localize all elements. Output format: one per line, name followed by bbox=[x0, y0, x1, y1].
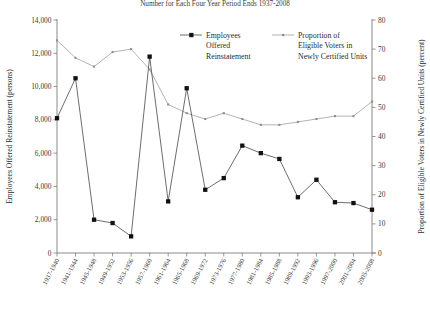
data-point-employees bbox=[55, 116, 59, 120]
x-tick-label: 1981-1984 bbox=[245, 257, 265, 286]
data-point-employees bbox=[351, 201, 355, 205]
legend-label-employees: Offered bbox=[206, 41, 230, 50]
y-tick-label-left: 2,000 bbox=[35, 215, 52, 224]
data-point-employees bbox=[92, 218, 96, 222]
data-point-employees bbox=[314, 178, 318, 182]
data-point-proportion bbox=[149, 68, 151, 70]
x-tick-label: 1977-1980 bbox=[226, 257, 246, 286]
legend-label-proportion: Newly Certified Units bbox=[298, 52, 367, 61]
x-tick-label: 1965-1968 bbox=[170, 257, 190, 286]
series-line-employees-offered-reinstatement bbox=[57, 57, 372, 237]
y-tick-label-right: 0 bbox=[378, 249, 382, 258]
y-tick-label-right: 70 bbox=[378, 45, 386, 54]
data-point-proportion bbox=[112, 51, 114, 53]
data-point-employees bbox=[73, 76, 77, 80]
legend-marker-proportion bbox=[282, 34, 284, 36]
data-point-proportion bbox=[297, 121, 299, 123]
data-point-employees bbox=[370, 208, 374, 212]
y-tick-label-left: 4,000 bbox=[35, 182, 52, 191]
data-point-proportion bbox=[56, 39, 58, 41]
data-point-proportion bbox=[278, 124, 280, 126]
y-tick-label-right: 30 bbox=[378, 161, 386, 170]
data-point-employees bbox=[296, 195, 300, 199]
data-point-employees bbox=[259, 151, 263, 155]
legend-label-employees: Reinstatement bbox=[206, 52, 251, 61]
legend-label-employees: Employees bbox=[206, 31, 241, 40]
y-tick-label-right: 60 bbox=[378, 74, 386, 83]
x-tick-label: 2001-2004 bbox=[337, 257, 357, 286]
x-tick-label: 1937-1940 bbox=[41, 257, 61, 286]
data-point-proportion bbox=[371, 101, 373, 103]
y-axis-title-right: Proportion of Eligible Voters in Newly C… bbox=[417, 39, 426, 234]
data-point-proportion bbox=[223, 112, 225, 114]
x-tick-label: 1997-2000 bbox=[319, 257, 339, 286]
data-point-employees bbox=[222, 176, 226, 180]
x-tick-label: 1957-1960 bbox=[133, 257, 153, 286]
y-tick-label-left: 8,000 bbox=[35, 115, 52, 124]
y-tick-label-left: 10,000 bbox=[31, 82, 52, 91]
x-tick-label: 1985-1988 bbox=[263, 257, 283, 286]
data-point-proportion bbox=[241, 118, 243, 120]
data-point-employees bbox=[166, 199, 170, 203]
data-point-employees bbox=[110, 221, 114, 225]
y-tick-label-right: 20 bbox=[378, 190, 386, 199]
data-point-employees bbox=[185, 86, 189, 90]
y-tick-label-right: 40 bbox=[378, 132, 386, 141]
x-tick-label: 2005-2008 bbox=[356, 257, 376, 286]
data-point-proportion bbox=[186, 112, 188, 114]
data-point-proportion bbox=[260, 124, 262, 126]
x-tick-label: 1969-1972 bbox=[189, 257, 209, 286]
data-point-employees bbox=[333, 200, 337, 204]
x-tick-label: 1941-1944 bbox=[59, 257, 79, 286]
data-point-proportion bbox=[315, 118, 317, 120]
data-point-employees bbox=[203, 188, 207, 192]
data-point-proportion bbox=[204, 118, 206, 120]
x-tick-label: 1989-1992 bbox=[282, 257, 302, 286]
data-point-proportion bbox=[334, 115, 336, 117]
data-point-proportion bbox=[352, 115, 354, 117]
data-point-proportion bbox=[130, 48, 132, 50]
legend-label-proportion: Eligible Voters in bbox=[298, 41, 352, 50]
data-point-proportion bbox=[167, 103, 169, 105]
data-point-employees bbox=[147, 54, 151, 58]
data-point-employees bbox=[129, 234, 133, 238]
y-tick-label-right: 10 bbox=[378, 219, 386, 228]
chart-title: Number for Each Four Year Period Ends 19… bbox=[140, 0, 290, 8]
chart-container: Number for Each Four Year Period Ends 19… bbox=[0, 0, 430, 314]
x-tick-label: 1953-1956 bbox=[115, 257, 135, 286]
x-tick-label: 1973-1976 bbox=[208, 257, 228, 286]
x-tick-label: 1949-1952 bbox=[96, 257, 116, 286]
legend-label-proportion: Proportion of bbox=[298, 31, 340, 40]
data-point-employees bbox=[240, 144, 244, 148]
data-point-proportion bbox=[74, 57, 76, 59]
legend-marker-employees bbox=[189, 33, 193, 37]
y-tick-label-left: 6,000 bbox=[35, 149, 52, 158]
y-tick-label-right: 80 bbox=[378, 16, 386, 25]
x-tick-label: 1993-1996 bbox=[300, 257, 320, 286]
x-tick-label: 1945-1948 bbox=[78, 257, 98, 286]
y-tick-label-left: 14,000 bbox=[31, 16, 52, 25]
y-tick-label-left: 0 bbox=[48, 249, 52, 258]
y-tick-label-left: 12,000 bbox=[31, 49, 52, 58]
data-point-employees bbox=[277, 157, 281, 161]
y-axis-title-left: Employees Offered Reinstatement (persons… bbox=[5, 69, 14, 204]
data-point-proportion bbox=[93, 66, 95, 68]
line-chart: Number for Each Four Year Period Ends 19… bbox=[0, 0, 430, 314]
y-tick-label-right: 50 bbox=[378, 103, 386, 112]
x-tick-label: 1961-1964 bbox=[152, 257, 172, 286]
